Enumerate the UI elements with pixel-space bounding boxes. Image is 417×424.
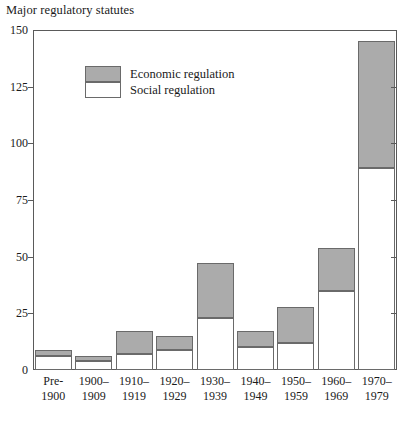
x-tick-label: 1930–1939	[195, 374, 235, 404]
x-tick-label-line1: 1910–	[119, 374, 149, 388]
y-tick-label: 150	[10, 24, 28, 36]
x-tick-label: 1970–1979	[357, 374, 397, 404]
bar-segment-economic	[277, 307, 314, 343]
bar-segment-social	[197, 318, 234, 370]
y-tick-mark	[28, 313, 34, 314]
x-tick-label-line2: 1969	[316, 389, 356, 404]
x-tick-label: 1920–1929	[154, 374, 194, 404]
x-tick-label-line2: 1949	[235, 389, 275, 404]
x-tick-label: 1940–1949	[235, 374, 275, 404]
bar-group	[358, 41, 395, 370]
y-tick-label: 75	[16, 194, 28, 206]
y-tick-label: 25	[16, 307, 28, 319]
bar-segment-economic	[197, 263, 234, 317]
bar-segment-economic	[35, 350, 72, 357]
legend-label: Social regulation	[130, 82, 215, 98]
legend-swatch-economic	[85, 66, 121, 82]
x-tick-label-line2: 1900	[33, 389, 73, 404]
x-tick-label-line1: 1940–	[240, 374, 270, 388]
bar-segment-social	[318, 291, 355, 370]
legend-label: Economic regulation	[130, 66, 234, 82]
legend-swatch-social	[85, 82, 121, 98]
bar-segment-economic	[156, 336, 193, 350]
bar-segment-social	[237, 347, 274, 370]
bar-group	[277, 307, 314, 370]
x-tick-label: 1950–1959	[276, 374, 316, 404]
bar-group	[318, 248, 355, 370]
x-tick-label-line2: 1959	[276, 389, 316, 404]
x-tick-label-line2: 1919	[114, 389, 154, 404]
bar-segment-social	[277, 343, 314, 370]
x-tick-label-line1: 1920–	[160, 374, 190, 388]
bar-group	[197, 263, 234, 370]
x-tick-label: 1910–1919	[114, 374, 154, 404]
bar-group	[237, 331, 274, 370]
bar-segment-social	[358, 168, 395, 370]
bar-group	[156, 336, 193, 370]
x-tick-label-line2: 1929	[154, 389, 194, 404]
bar-group	[75, 356, 112, 370]
bar-segment-social	[75, 361, 112, 370]
y-tick-label: 0	[22, 364, 28, 376]
bar-segment-economic	[116, 331, 153, 354]
y-tick-mark	[391, 87, 397, 88]
legend-item: Social regulation	[85, 82, 300, 98]
y-tick-mark	[391, 143, 397, 144]
x-tick-label: 1900–1909	[73, 374, 113, 404]
bar-segment-social	[35, 356, 72, 370]
x-tick-label: 1960–1969	[316, 374, 356, 404]
bar-segment-social	[116, 354, 153, 370]
bar-segment-economic	[358, 41, 395, 168]
y-tick-label: 50	[16, 251, 28, 263]
regulatory-statutes-chart: Major regulatory statutes 02550751001251…	[0, 0, 417, 424]
bar-group	[35, 350, 72, 370]
x-tick-label-line1: 1950–	[281, 374, 311, 388]
bar-segment-economic	[237, 331, 274, 347]
y-tick-mark	[391, 313, 397, 314]
chart-legend: Economic regulationSocial regulation	[85, 66, 300, 98]
bar-group	[116, 331, 153, 370]
x-tick-label-line1: 1900–	[79, 374, 109, 388]
x-tick-label-line1: 1970–	[362, 374, 392, 388]
x-tick-label-line2: 1979	[357, 389, 397, 404]
y-tick-mark	[28, 143, 34, 144]
x-tick-label: Pre-1900	[33, 374, 73, 404]
y-tick-mark	[28, 257, 34, 258]
y-tick-mark	[28, 200, 34, 201]
y-tick-mark	[391, 200, 397, 201]
bar-segment-economic	[75, 356, 112, 361]
x-tick-label-line2: 1939	[195, 389, 235, 404]
legend-item: Economic regulation	[85, 66, 300, 82]
x-tick-label-line1: 1960–	[321, 374, 351, 388]
y-axis: 0255075100125150	[0, 30, 28, 370]
x-axis: Pre-19001900–19091910–19191920–19291930–…	[33, 374, 397, 418]
x-tick-label-line2: 1909	[73, 389, 113, 404]
bar-segment-social	[156, 350, 193, 370]
bar-segment-economic	[318, 248, 355, 291]
x-tick-label-line1: 1930–	[200, 374, 230, 388]
y-tick-label: 100	[10, 137, 28, 149]
x-tick-label-line1: Pre-	[43, 374, 63, 388]
y-tick-mark	[28, 87, 34, 88]
chart-title: Major regulatory statutes	[6, 3, 134, 17]
y-tick-mark	[391, 257, 397, 258]
y-tick-label: 125	[10, 81, 28, 93]
